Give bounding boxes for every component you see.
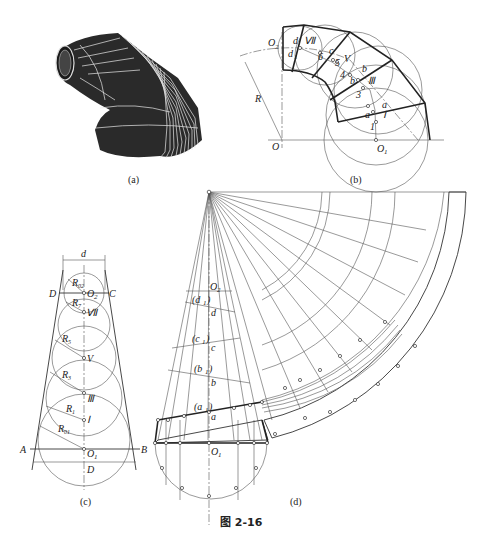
panel-a-elbow-render: [56, 33, 202, 158]
panel-d-development: [153, 190, 466, 525]
svg-text:Ⅶ: Ⅶ: [86, 307, 99, 318]
svg-text:(d: (d: [192, 294, 201, 306]
svg-text:D: D: [48, 288, 57, 299]
panel-d-caption: (d): [290, 496, 302, 508]
svg-text:A: A: [19, 444, 27, 455]
panel-b-caption: (b): [350, 174, 362, 186]
svg-text:a: a: [365, 109, 370, 120]
figure-canvas: (a): [0, 0, 484, 544]
svg-text:(b: (b: [194, 363, 202, 375]
svg-text:6: 6: [318, 51, 323, 62]
svg-text:Ⅰ: Ⅰ: [87, 414, 91, 425]
svg-text:1: 1: [72, 409, 75, 415]
svg-text:(c: (c: [192, 333, 200, 345]
svg-text:2: 2: [217, 286, 221, 294]
svg-text:b: b: [350, 75, 355, 86]
svg-text:4: 4: [340, 69, 345, 80]
panel-c-sphere-cone: [30, 255, 140, 490]
svg-text:V: V: [344, 53, 352, 64]
svg-text:5: 5: [335, 57, 340, 68]
svg-text:2: 2: [94, 293, 98, 301]
svg-text:): ): [205, 333, 210, 345]
svg-text:B: B: [141, 444, 147, 455]
svg-text:O: O: [272, 141, 279, 152]
svg-text:b: b: [362, 63, 367, 74]
svg-text:): ): [206, 294, 211, 306]
panel-a-caption: (a): [128, 174, 139, 186]
panel-b-labels: O 2 d d 1 Ⅶ 6 c 5 V 4 b b Ⅲ 3 a a Ⅰ 1 O …: [254, 35, 388, 156]
svg-text:1: 1: [203, 299, 207, 307]
svg-text:d: d: [211, 307, 217, 318]
svg-text:3: 3: [355, 89, 361, 100]
svg-text:c: c: [329, 45, 334, 56]
svg-text:d: d: [81, 248, 87, 259]
svg-text:Ⅲ: Ⅲ: [368, 75, 376, 86]
svg-text:d: d: [293, 35, 299, 46]
svg-text:D: D: [86, 464, 95, 475]
svg-text:7: 7: [78, 303, 82, 309]
svg-text:V: V: [87, 353, 95, 364]
svg-text:02: 02: [78, 283, 84, 289]
svg-text:5: 5: [68, 339, 71, 345]
panel-c-caption: (c): [80, 496, 91, 508]
svg-text:a: a: [211, 411, 216, 422]
R-dimension-line: [245, 62, 282, 140]
svg-text:Ⅲ: Ⅲ: [87, 393, 95, 404]
svg-text:1: 1: [202, 338, 206, 346]
svg-text:C: C: [109, 288, 116, 299]
svg-text:3: 3: [67, 375, 71, 381]
svg-text:1: 1: [205, 368, 209, 376]
svg-text:1: 1: [94, 453, 98, 461]
svg-text:(a: (a: [194, 401, 202, 413]
svg-text:1: 1: [384, 148, 388, 156]
svg-text:R: R: [254, 93, 261, 104]
svg-text:01: 01: [64, 429, 70, 435]
svg-text:2: 2: [275, 43, 279, 51]
panel-b-elbow-front-view: [240, 25, 444, 192]
figure-title: 图 2-16: [220, 516, 263, 529]
svg-text:1: 1: [370, 121, 375, 132]
svg-text:1: 1: [294, 53, 298, 61]
svg-text:c: c: [211, 342, 216, 353]
svg-text:Ⅶ: Ⅶ: [304, 35, 317, 46]
svg-text:1: 1: [205, 406, 209, 414]
svg-text:b: b: [211, 377, 216, 388]
svg-text:1: 1: [218, 451, 222, 459]
svg-text:): ): [208, 363, 213, 375]
